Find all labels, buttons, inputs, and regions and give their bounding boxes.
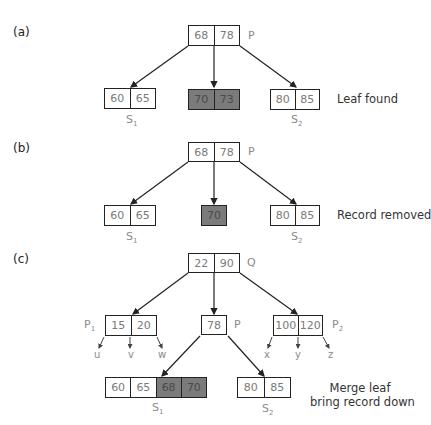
node-p-c: 78 [201,315,227,335]
leaf-name-s1: S1 [126,113,137,128]
pointer-label-v: v [128,349,134,360]
leaf-name-s1: S1 [126,230,137,245]
panel-label-c: (c) [13,252,29,266]
key: 78 [202,316,226,334]
key-highlighted: 70 [181,378,206,397]
leaf-s1-a: 60 65 [104,88,156,109]
leaf-s2-c: 80 85 [237,377,291,398]
key: 78 [214,143,240,161]
node-q-c: 22 90 [188,253,240,273]
leaf-found-a: 70 73 [188,89,240,110]
leaf-s1-merged-c: 60 65 68 70 [105,377,207,398]
node-name-p2: P2 [332,318,343,333]
key: 85 [295,90,320,109]
key: 22 [189,254,214,272]
node-p2-c: 100 120 [273,315,323,336]
key: 100 [274,316,298,335]
key: 60 [105,89,130,108]
key: 65 [130,89,156,108]
edges-panel-a [131,46,296,87]
caption-c-line2: bring record down [310,395,410,409]
caption-c-line1: Merge leaf [318,381,402,395]
leaf-s2-b: 80 85 [270,205,320,226]
node-name-q: Q [247,256,256,269]
key: 78 [214,26,240,45]
node-name-p: P [234,318,241,331]
leaf-name-s2: S2 [262,402,273,417]
leaf-name-s2: S2 [291,113,302,128]
pointer-label-u: u [94,349,100,360]
key: 85 [295,206,320,225]
key: 90 [214,254,240,272]
key: 80 [271,90,295,109]
panel-label-a: (a) [13,25,30,39]
key: 65 [130,378,155,397]
key: 68 [189,143,214,161]
pointer-label-z: z [328,349,333,360]
leaf-name-s2: S2 [291,230,302,245]
leaf-s1-b: 60 65 [104,205,156,226]
key: 120 [298,316,323,335]
node-p1-c: 15 20 [105,315,157,336]
key: 60 [105,206,130,225]
panel-label-b: (b) [13,141,30,155]
key: 60 [106,378,130,397]
node-p-a: 68 78 [188,25,240,46]
key-highlighted: 73 [214,90,240,109]
leaf-s2-a: 80 85 [270,89,320,110]
key: 15 [106,316,131,335]
key-highlighted: 70 [189,90,214,109]
key: 65 [130,206,156,225]
pointer-label-w: w [158,349,166,360]
edges-panel-b [131,162,296,204]
node-name-p: P [248,145,255,158]
key-highlighted: 68 [156,378,181,397]
node-name-p: P [248,29,255,42]
node-p-b: 68 78 [188,142,240,162]
node-name-p1: P1 [84,318,95,333]
leaf-name-s1: S1 [152,401,163,416]
key: 80 [238,378,264,397]
key: 85 [264,378,291,397]
key: 20 [131,316,157,335]
caption-b: Record removed [337,208,431,222]
pointer-label-x: x [264,349,270,360]
key: 80 [271,206,295,225]
pointer-label-y: y [295,349,301,360]
key-highlighted: 70 [202,206,226,225]
leaf-record-removed-b: 70 [201,205,227,226]
key: 68 [189,26,214,45]
caption-a: Leaf found [337,92,398,106]
